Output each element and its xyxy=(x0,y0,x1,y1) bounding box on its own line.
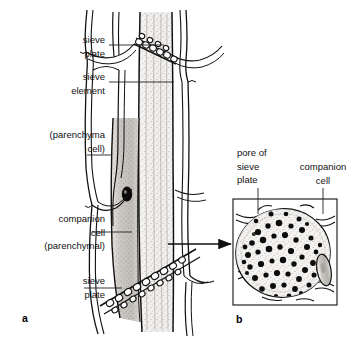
label-companion-cell-a: companion cell (parenchymal) xyxy=(5,212,105,253)
companion-cell-nucleus xyxy=(122,187,132,202)
label-parenchyma-cell: (parenchyma cell) xyxy=(5,128,105,155)
panel-letter-b: b xyxy=(236,313,242,325)
label-sieve-plate-lower: sieve plate xyxy=(10,274,105,301)
panel-b-artwork xyxy=(230,199,337,305)
label-sieve-plate-top: sieve plate xyxy=(10,33,105,60)
panel-letter-a: a xyxy=(22,312,28,324)
label-companion-cell-b: companion cell xyxy=(288,160,358,187)
figure-phloem-sieve-element: sieve plate sieve element (parenchyma ce… xyxy=(0,0,362,347)
label-sieve-element: sieve element xyxy=(10,70,105,97)
